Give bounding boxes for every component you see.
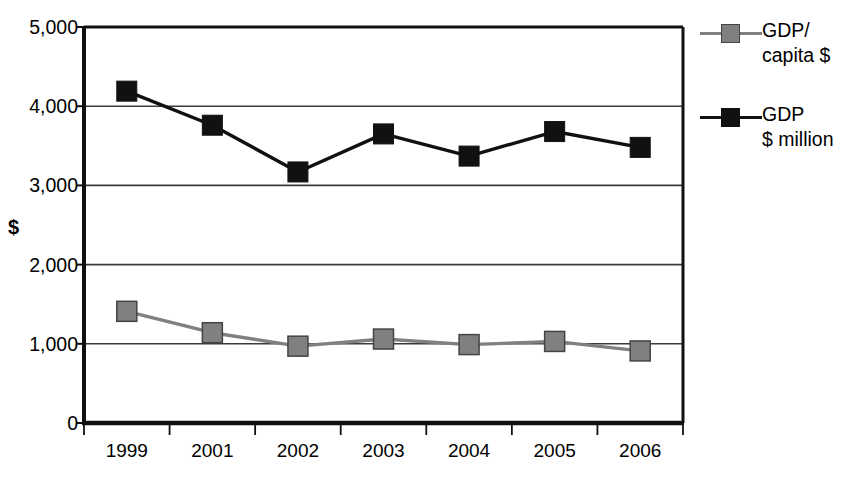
data-point-gdp-per-capita-1999[interactable] <box>117 301 137 321</box>
data-point-gdp-per-capita-2001[interactable] <box>202 323 222 343</box>
data-point-gdp-per-capita-2003[interactable] <box>374 329 394 349</box>
legend-item-gdp-per-capita[interactable]: GDP/ capita $ <box>700 18 860 68</box>
legend: GDP/ capita $ GDP $ million <box>700 18 860 186</box>
legend-label-gdp-per-capita: GDP/ capita $ <box>762 18 830 68</box>
chart-container: $ 01,0002,0003,0004,0005,000 19992001200… <box>0 0 861 488</box>
legend-square-marker <box>721 24 740 43</box>
data-point-gdp-million-1999[interactable] <box>117 81 137 101</box>
data-point-gdp-million-2001[interactable] <box>202 115 222 135</box>
legend-label-gdp-million: GDP $ million <box>762 102 834 152</box>
data-point-gdp-million-2002[interactable] <box>288 162 308 182</box>
legend-square-marker <box>721 108 740 127</box>
data-point-gdp-per-capita-2002[interactable] <box>288 336 308 356</box>
legend-key-gdp-million <box>700 104 762 130</box>
data-point-gdp-million-2005[interactable] <box>545 122 565 142</box>
data-point-gdp-per-capita-2004[interactable] <box>459 335 479 355</box>
data-point-gdp-million-2004[interactable] <box>459 146 479 166</box>
data-point-gdp-per-capita-2005[interactable] <box>545 331 565 351</box>
legend-key-gdp-per-capita <box>700 20 762 46</box>
data-point-gdp-million-2003[interactable] <box>374 124 394 144</box>
legend-item-gdp-million[interactable]: GDP $ million <box>700 102 860 152</box>
data-point-gdp-million-2006[interactable] <box>630 137 650 157</box>
data-point-gdp-per-capita-2006[interactable] <box>630 341 650 361</box>
